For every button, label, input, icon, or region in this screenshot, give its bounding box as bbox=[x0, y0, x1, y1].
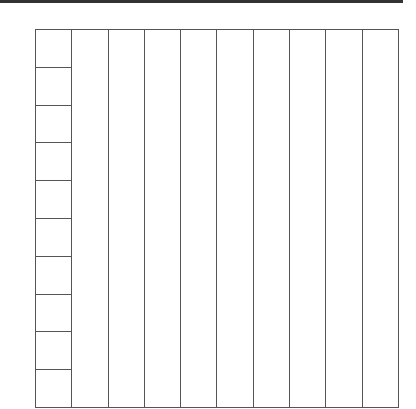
grid-cell bbox=[36, 218, 71, 256]
grid-cell bbox=[109, 30, 144, 407]
grid-cell bbox=[36, 105, 71, 143]
grid-cell bbox=[36, 256, 71, 294]
tenth-column bbox=[71, 30, 107, 407]
grid-cell bbox=[181, 30, 216, 407]
grid-cell bbox=[36, 30, 71, 67]
grid-cell bbox=[145, 30, 180, 407]
unit-column bbox=[36, 30, 71, 407]
grid-cell bbox=[36, 331, 71, 369]
tenth-column bbox=[216, 30, 252, 407]
grid-cell bbox=[36, 180, 71, 218]
grid-cell bbox=[290, 30, 325, 407]
grid-cell bbox=[217, 30, 252, 407]
grid-cell bbox=[36, 142, 71, 180]
grid-cell bbox=[72, 30, 107, 407]
grid-cell bbox=[36, 369, 71, 407]
tenth-column bbox=[253, 30, 289, 407]
tenth-column bbox=[362, 30, 398, 407]
grid-cell bbox=[326, 30, 361, 407]
tenth-column bbox=[325, 30, 361, 407]
grid-cell bbox=[363, 30, 398, 407]
tenth-column bbox=[144, 30, 180, 407]
tenth-column bbox=[289, 30, 325, 407]
hundred-grid bbox=[35, 29, 399, 408]
grid-cell bbox=[36, 294, 71, 332]
grid-cell bbox=[254, 30, 289, 407]
tenth-column bbox=[180, 30, 216, 407]
top-rule bbox=[0, 0, 403, 3]
grid-cell bbox=[36, 67, 71, 105]
tenth-column bbox=[108, 30, 144, 407]
